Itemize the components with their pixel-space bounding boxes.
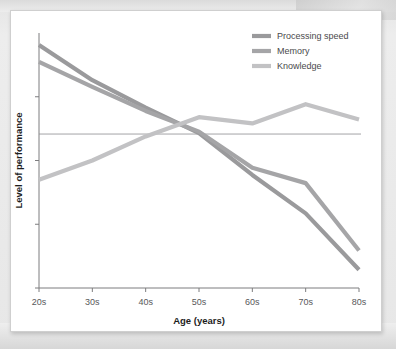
chart-legend: Processing speedMemoryKnowledge (252, 31, 349, 71)
series-line-knowledge (39, 104, 359, 180)
x-tick-labels: 20s30s40s50s60s70s80s (32, 297, 367, 307)
x-tick-label: 50s (192, 297, 207, 307)
x-tick-label: 80s (352, 297, 367, 307)
x-axis-title: Age (years) (173, 315, 225, 326)
legend-label-memory: Memory (277, 46, 310, 56)
legend-label-processing-speed: Processing speed (277, 31, 349, 41)
chart-svg: 20s30s40s50s60s70s80s Age (years) Level … (11, 11, 383, 333)
series-line-processing-speed (39, 45, 359, 270)
figure-card: 20s30s40s50s60s70s80s Age (years) Level … (10, 10, 382, 332)
series-line-memory (39, 62, 359, 251)
x-tick-label: 20s (32, 297, 47, 307)
x-tick-label: 30s (85, 297, 100, 307)
x-tick-label: 70s (298, 297, 313, 307)
series-group (39, 45, 359, 270)
legend-label-knowledge: Knowledge (277, 61, 322, 71)
x-tick-label: 60s (245, 297, 260, 307)
y-axis-ticks (35, 97, 39, 288)
y-axis-title: Level of performance (13, 112, 24, 208)
x-axis-ticks (39, 288, 359, 292)
x-tick-label: 40s (138, 297, 153, 307)
line-chart: 20s30s40s50s60s70s80s Age (years) Level … (11, 11, 381, 331)
